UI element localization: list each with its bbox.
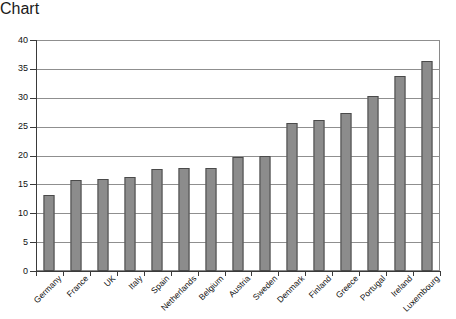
y-tick-label: 35 <box>4 64 28 73</box>
x-tick-label: Ireland <box>389 274 414 299</box>
bars-layer <box>36 40 440 271</box>
bar-slot <box>305 40 332 271</box>
bar[interactable] <box>259 156 270 271</box>
bar-slot <box>386 40 413 271</box>
y-tick-label: 30 <box>4 93 28 102</box>
bar[interactable] <box>421 61 432 271</box>
bar[interactable] <box>71 180 82 271</box>
bar-slot <box>36 40 63 271</box>
bar-slot <box>413 40 440 271</box>
x-tick-label: Spain <box>150 274 172 296</box>
x-tick-label: Belgium <box>197 274 225 302</box>
bar[interactable] <box>98 179 109 271</box>
x-tick-label: Austria <box>227 274 252 299</box>
bar-slot <box>225 40 252 271</box>
y-tick-label: 20 <box>4 151 28 160</box>
bar-chart: 0510152025303540 GermanyFranceUKItalySpa… <box>0 18 456 319</box>
x-tick-label: Finland <box>307 274 333 300</box>
x-tick-label: Portugal <box>358 274 387 303</box>
y-tick-label: 0 <box>4 267 28 276</box>
bar[interactable] <box>44 195 55 271</box>
bar[interactable] <box>232 157 243 271</box>
bar[interactable] <box>340 113 351 271</box>
bar-slot <box>198 40 225 271</box>
y-tick-label: 10 <box>4 209 28 218</box>
bar[interactable] <box>179 168 190 271</box>
x-tick-label: France <box>66 274 91 299</box>
x-tick-label: Germany <box>33 274 64 305</box>
bar[interactable] <box>394 76 405 271</box>
bar-slot <box>171 40 198 271</box>
x-tick-label: Denmark <box>275 274 306 305</box>
bar[interactable] <box>313 120 324 271</box>
bar-slot <box>90 40 117 271</box>
y-tick-label: 15 <box>4 180 28 189</box>
x-axis-labels: GermanyFranceUKItalySpainNetherlandsBelg… <box>36 274 440 319</box>
bar-slot <box>117 40 144 271</box>
bar[interactable] <box>206 168 217 271</box>
bar-slot <box>63 40 90 271</box>
bar[interactable] <box>125 177 136 271</box>
bar[interactable] <box>286 123 297 271</box>
x-tick-label: UK <box>103 274 118 289</box>
x-tick-label: Greece <box>334 274 360 300</box>
x-tick-mark <box>440 271 441 276</box>
bar[interactable] <box>152 169 163 271</box>
bar-slot <box>251 40 278 271</box>
y-tick-label: 25 <box>4 122 28 131</box>
bar-slot <box>278 40 305 271</box>
x-tick-label: Italy <box>127 274 144 291</box>
y-tick-label: 40 <box>4 36 28 45</box>
y-tick-label: 5 <box>4 238 28 247</box>
bar-slot <box>359 40 386 271</box>
bar-slot <box>332 40 359 271</box>
bar-slot <box>144 40 171 271</box>
x-axis-line <box>36 271 440 272</box>
bar[interactable] <box>367 96 378 271</box>
